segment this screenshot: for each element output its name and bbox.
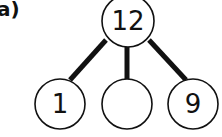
- child-node-0: 1: [35, 79, 85, 129]
- node-circle: [102, 79, 152, 129]
- node-label: 1: [52, 89, 69, 119]
- tree-edge-2: [149, 40, 186, 80]
- child-node-1: [102, 79, 152, 129]
- node-label: 12: [111, 6, 144, 36]
- tree-diagram: a) 1219: [0, 0, 222, 137]
- node-label: 9: [185, 89, 202, 119]
- child-node-2: 9: [168, 79, 218, 129]
- figure-label: a): [0, 0, 20, 21]
- tree-edge-0: [70, 40, 106, 80]
- root-node: 12: [102, 0, 154, 47]
